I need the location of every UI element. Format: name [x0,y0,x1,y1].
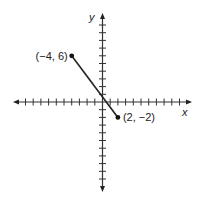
point-a-marker [69,53,74,58]
y-axis-top-arrow-icon [100,13,105,19]
x-axis-label: x [181,106,188,118]
coordinate-plane: (−4, 6) (2, −2) x y [0,0,199,203]
line-segment [72,56,118,118]
y-axis-bottom-arrow-icon [100,186,105,192]
point-b-marker [116,115,121,120]
x-axis-right-arrow-icon [186,100,192,105]
x-axis-left-arrow-icon [13,100,19,105]
point-a-label: (−4, 6) [36,50,68,62]
point-b-label: (2, −2) [123,111,155,123]
y-axis-label: y [88,11,96,23]
